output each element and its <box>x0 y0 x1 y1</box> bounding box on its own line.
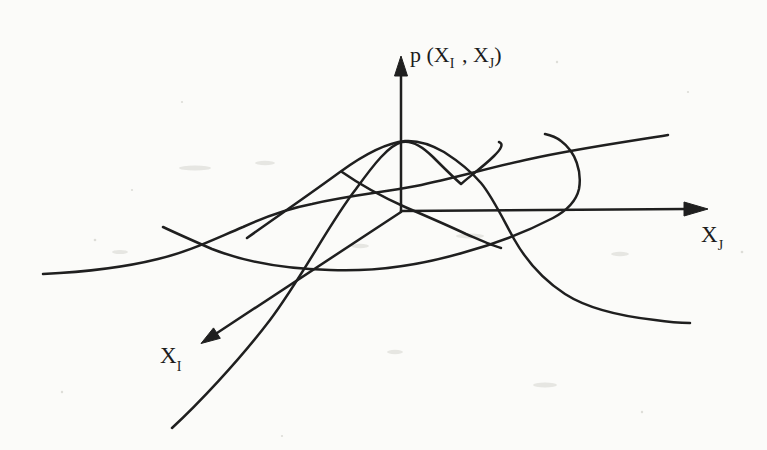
density-surface-figure: p (XI , XJ) XJ XI <box>0 0 767 450</box>
xi-axis-line <box>217 212 401 333</box>
xi-axis-label: XI <box>160 343 182 374</box>
front-rim-curve <box>163 134 580 270</box>
p-axis-arrowhead-icon <box>395 56 408 76</box>
xj-axis-label: XJ <box>701 222 724 253</box>
bell-curve-xj-section <box>247 141 690 323</box>
p-axis-label: p (XI , XJ) <box>410 42 502 71</box>
xj-axis-arrowhead-icon <box>684 202 708 216</box>
scanned-figure-page: p (XI , XJ) XJ XI <box>0 0 767 450</box>
bell-curve-xi-section <box>172 142 501 428</box>
xj-axis-line <box>401 209 686 211</box>
xj-axis <box>401 202 708 216</box>
xi-axis-arrowhead-icon <box>201 328 220 344</box>
